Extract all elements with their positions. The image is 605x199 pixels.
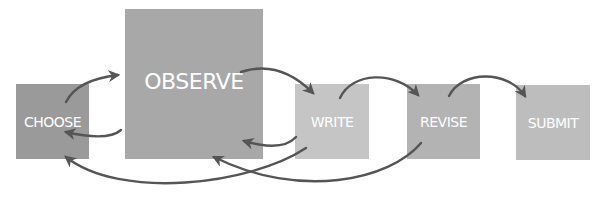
node-choose-label: CHOOSE [24, 114, 81, 130]
node-observe-label: OBSERVE [144, 69, 243, 94]
node-write: WRITE [295, 84, 369, 159]
node-observe: OBSERVE [125, 9, 263, 159]
node-revise-label: REVISE [420, 114, 467, 130]
node-submit: SUBMIT [516, 85, 590, 160]
node-choose: CHOOSE [16, 84, 89, 159]
node-write-label: WRITE [311, 114, 354, 130]
node-submit-label: SUBMIT [528, 115, 579, 131]
node-revise: REVISE [407, 84, 480, 159]
